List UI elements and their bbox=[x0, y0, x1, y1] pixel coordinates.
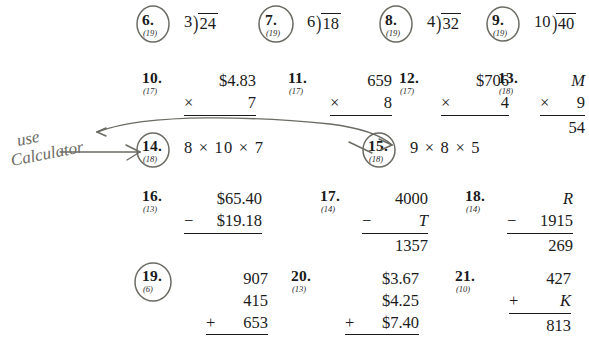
operator-sign: − bbox=[507, 210, 522, 232]
operand-row-2: 415 bbox=[206, 290, 268, 312]
problem-number: 7. bbox=[265, 12, 307, 28]
operand-bottom: 8 bbox=[384, 92, 392, 114]
problem-number-block: 10. (17) bbox=[142, 70, 184, 96]
long-division-expression: 4 ) 32 bbox=[427, 12, 461, 34]
operand-bottom: T bbox=[419, 210, 428, 232]
column-arithmetic: 907 415 + 653 bbox=[206, 268, 268, 335]
operator-sign: × bbox=[441, 92, 456, 114]
dividend: 24 bbox=[198, 13, 219, 34]
problem-number-block: 7. (19) bbox=[265, 12, 307, 38]
column-arithmetic: 4000 − T 1357 bbox=[362, 188, 428, 256]
problem-12: 12. (17) $706 × 4 bbox=[399, 70, 509, 116]
problem-number-block: 12. (17) bbox=[399, 70, 441, 96]
long-division-expression: 10 ) 40 bbox=[534, 12, 576, 34]
column-arithmetic: $4.83 × 7 bbox=[184, 70, 256, 116]
division-bracket-icon: ) bbox=[316, 12, 321, 33]
problem-lesson-ref: (19) bbox=[266, 29, 307, 38]
operand-bottom-row: − T bbox=[362, 210, 428, 234]
problem-number: 18. bbox=[465, 188, 507, 204]
operand-row-1: 907 bbox=[206, 268, 268, 290]
problem-14: 14. (18) 8 × 10 × 7 bbox=[142, 138, 264, 164]
operand-bottom: K bbox=[560, 290, 571, 312]
operand-bottom-row: × 8 bbox=[330, 92, 392, 116]
problem-lesson-ref: (6) bbox=[143, 285, 184, 294]
problem-number-block: 13. (18) bbox=[498, 70, 540, 96]
problem-number-block: 21. (10) bbox=[455, 268, 497, 294]
problem-lesson-ref: (17) bbox=[400, 87, 441, 96]
operand-bottom: 7 bbox=[248, 92, 256, 114]
answer: 269 bbox=[507, 234, 573, 257]
problem-number: 12. bbox=[399, 70, 441, 86]
column-arithmetic: $65.40 − $19.18 bbox=[184, 188, 262, 234]
dividend: 18 bbox=[321, 13, 342, 34]
problem-16: 16. (13) $65.40 − $19.18 bbox=[142, 188, 262, 234]
division-bracket-icon: ) bbox=[436, 12, 441, 33]
column-arithmetic: 427 + K 813 bbox=[509, 268, 571, 336]
problem-lesson-ref: (14) bbox=[321, 205, 362, 214]
problem-number-block: 6. (19) bbox=[142, 12, 184, 38]
operand-top: $65.40 bbox=[184, 188, 262, 210]
column-arithmetic: M × 9 54 bbox=[540, 70, 585, 138]
operator-sign: × bbox=[184, 92, 199, 114]
problem-19: 19. (6) 907 415 + 653 bbox=[142, 268, 268, 335]
problem-lesson-ref: (17) bbox=[289, 87, 330, 96]
operator-sign: + bbox=[345, 312, 360, 334]
problem-lesson-ref: (17) bbox=[143, 87, 184, 96]
operator-sign: − bbox=[362, 210, 377, 232]
problem-number: 14. bbox=[142, 138, 184, 154]
problem-number-block: 17. (14) bbox=[320, 188, 362, 214]
problem-number-block: 11. (17) bbox=[288, 70, 330, 96]
problem-number-block: 15. (18) bbox=[368, 138, 410, 164]
problem-number-block: 20. (13) bbox=[291, 268, 333, 294]
dividend: 32 bbox=[441, 13, 462, 34]
operand-top: 4000 bbox=[362, 188, 428, 210]
problem-lesson-ref: (19) bbox=[143, 29, 184, 38]
operator-sign: × bbox=[330, 92, 345, 114]
problem-20: 20. (13) $3.67 $4.25 + $7.40 bbox=[291, 268, 419, 335]
problem-number-block: 8. (19) bbox=[385, 12, 427, 38]
problem-number: 19. bbox=[142, 268, 184, 284]
operand-bottom-row: × 9 bbox=[540, 92, 585, 116]
problem-number-block: 14. (18) bbox=[142, 138, 184, 164]
problem-17: 17. (14) 4000 − T 1357 bbox=[320, 188, 428, 256]
operand-bottom: 653 bbox=[243, 312, 268, 334]
operand-top: 427 bbox=[509, 268, 571, 290]
problem-number: 8. bbox=[385, 12, 427, 28]
operand-row-2: $4.25 bbox=[345, 290, 419, 312]
operand-bottom-row: + K bbox=[509, 290, 571, 314]
long-division-expression: 3 ) 24 bbox=[184, 12, 218, 34]
column-arithmetic: $3.67 $4.25 + $7.40 bbox=[345, 268, 419, 335]
problem-number: 13. bbox=[498, 70, 540, 86]
operand-bottom: 9 bbox=[577, 92, 585, 114]
operand-top: M bbox=[540, 70, 585, 92]
problem-number: 21. bbox=[455, 268, 497, 284]
problem-number: 11. bbox=[288, 70, 330, 86]
operator-sign: − bbox=[184, 210, 199, 232]
handwritten-note-line-2: Calculator bbox=[9, 137, 85, 170]
problem-lesson-ref: (18) bbox=[143, 155, 184, 164]
operand-bottom-row: + $7.40 bbox=[345, 312, 419, 336]
problem-number-block: 16. (13) bbox=[142, 188, 184, 214]
problem-number: 17. bbox=[320, 188, 362, 204]
operand-bottom: $7.40 bbox=[382, 312, 419, 334]
problem-15: 15. (18) 9 × 8 × 5 bbox=[368, 138, 481, 164]
problem-11: 11. (17) 659 × 8 bbox=[288, 70, 392, 116]
operand-bottom: $19.18 bbox=[217, 210, 262, 232]
division-bracket-icon: ) bbox=[193, 12, 198, 33]
problem-number-block: 18. (14) bbox=[465, 188, 507, 214]
problem-number: 9. bbox=[492, 12, 534, 28]
division-bracket-icon: ) bbox=[552, 12, 557, 33]
problem-number: 6. bbox=[142, 12, 184, 28]
divisor: 4 bbox=[427, 13, 436, 32]
operand-bottom-row: − 1915 bbox=[507, 210, 573, 234]
problem-number: 16. bbox=[142, 188, 184, 204]
dividend: 40 bbox=[556, 13, 577, 34]
operand-top: 659 bbox=[330, 70, 392, 92]
problem-lesson-ref: (13) bbox=[292, 285, 333, 294]
problem-10: 10. (17) $4.83 × 7 bbox=[142, 70, 256, 116]
column-arithmetic: R − 1915 269 bbox=[507, 188, 573, 256]
problem-13: 13. (18) M × 9 54 bbox=[498, 70, 585, 138]
problem-number-block: 19. (6) bbox=[142, 268, 184, 294]
arrowhead-left-tip-a bbox=[97, 128, 106, 132]
handwritten-note: use Calculator bbox=[9, 127, 85, 170]
